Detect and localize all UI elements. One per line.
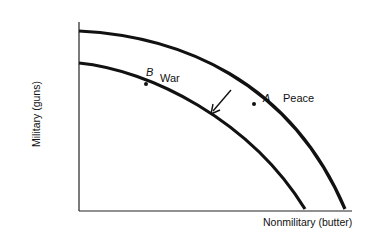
- shift-arrow-shaft: [213, 90, 231, 111]
- x-axis-label: Nonmilitary (butter): [263, 216, 352, 228]
- point-b-label: B: [146, 66, 153, 78]
- peace-curve: [79, 31, 345, 209]
- war-curve: [79, 63, 305, 209]
- ppf-diagram: [0, 0, 376, 252]
- peace-label: Peace: [283, 92, 314, 104]
- y-axis-label: Military (guns): [30, 72, 42, 156]
- war-label: War: [160, 72, 180, 84]
- point-b-marker: [144, 82, 148, 86]
- point-a-label: A: [263, 92, 270, 104]
- point-a-marker: [252, 102, 256, 106]
